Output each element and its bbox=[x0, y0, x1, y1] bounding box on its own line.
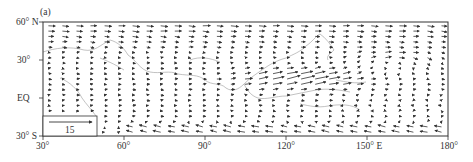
wind-vector bbox=[343, 121, 344, 122]
wind-vector bbox=[413, 63, 416, 65]
wind-vector bbox=[273, 31, 279, 32]
wind-vector bbox=[231, 47, 234, 48]
wind-vector bbox=[161, 95, 164, 96]
wind-vector bbox=[175, 36, 180, 37]
wind-vector bbox=[371, 95, 373, 96]
wind-vector bbox=[203, 31, 209, 32]
wind-vector bbox=[357, 78, 363, 79]
wind-vector bbox=[273, 77, 284, 79]
y-tick-eq: EQ bbox=[17, 93, 30, 103]
wind-vector bbox=[322, 130, 330, 132]
wind-vector bbox=[231, 100, 233, 101]
wind-vector bbox=[48, 95, 50, 96]
wind-vector bbox=[91, 84, 93, 85]
wind-vector bbox=[371, 26, 378, 27]
wind-vector bbox=[281, 131, 288, 132]
wind-vector bbox=[420, 131, 428, 132]
wind-vector bbox=[259, 72, 267, 74]
wind-vector bbox=[428, 26, 435, 27]
wind-vector bbox=[245, 84, 251, 85]
wind-vector bbox=[119, 31, 125, 32]
wind-vector bbox=[378, 125, 386, 127]
wind-vector bbox=[411, 105, 413, 106]
wind-vector bbox=[301, 26, 308, 27]
wind-vector bbox=[259, 116, 261, 117]
wind-vector bbox=[175, 100, 178, 101]
wind-vector bbox=[231, 78, 236, 79]
wind-vector bbox=[428, 31, 434, 32]
wind-vector bbox=[91, 79, 93, 80]
wind-vector bbox=[48, 84, 51, 85]
wind-vector bbox=[315, 71, 325, 73]
wind-vector bbox=[378, 131, 385, 132]
wind-vector bbox=[357, 89, 361, 90]
wind-vector bbox=[343, 67, 347, 68]
wind-vector bbox=[217, 73, 220, 74]
wind-vector bbox=[287, 116, 290, 117]
wind-vector bbox=[343, 72, 350, 74]
wind-vector bbox=[398, 106, 400, 107]
wind-vector bbox=[147, 79, 150, 80]
wind-vector bbox=[196, 131, 203, 132]
wind-vector bbox=[442, 52, 445, 53]
wind-vector bbox=[133, 31, 140, 32]
wind-vector bbox=[385, 51, 391, 52]
wind-vector bbox=[237, 131, 245, 132]
wind-vector bbox=[182, 125, 189, 127]
wind-vector bbox=[357, 51, 361, 52]
wind-vector bbox=[329, 26, 336, 27]
wind-vector bbox=[426, 100, 428, 101]
coastlines bbox=[43, 34, 366, 116]
wind-vector bbox=[105, 95, 107, 96]
wind-vector bbox=[428, 47, 432, 48]
wind-vector bbox=[301, 82, 312, 85]
wind-vector bbox=[385, 73, 386, 74]
wind-vector bbox=[371, 116, 373, 117]
wind-vector bbox=[399, 42, 404, 43]
wind-vector bbox=[161, 52, 163, 53]
wind-vector bbox=[287, 31, 293, 32]
wind-vector bbox=[442, 79, 445, 80]
wind-vector bbox=[189, 36, 194, 37]
panel-label: (a) bbox=[40, 7, 51, 18]
wind-vector bbox=[357, 36, 362, 37]
wind-vector bbox=[48, 100, 50, 101]
wind-vector bbox=[407, 126, 414, 127]
wind-vector bbox=[62, 84, 64, 85]
wind-vector bbox=[133, 26, 140, 27]
wind-vector bbox=[329, 72, 337, 74]
y-tick-60n: 60° N bbox=[16, 17, 39, 27]
y-tick-30n: 30° bbox=[17, 55, 31, 65]
wind-vector bbox=[301, 76, 315, 79]
wind-vector bbox=[231, 26, 239, 27]
wind-vector bbox=[48, 68, 50, 69]
wind-vector bbox=[287, 26, 294, 27]
wind-vector bbox=[442, 63, 444, 65]
wind-vector bbox=[343, 83, 351, 84]
wind-vector bbox=[91, 47, 95, 48]
wind-vector bbox=[442, 47, 446, 48]
wind-vector bbox=[365, 126, 371, 127]
wind-vector bbox=[315, 67, 321, 69]
wind-vector bbox=[343, 61, 346, 63]
wind-vector bbox=[371, 56, 376, 57]
wind-vector bbox=[161, 121, 162, 122]
wind-vector bbox=[105, 89, 108, 90]
wind-vector bbox=[329, 83, 338, 84]
wind-vector bbox=[126, 125, 132, 127]
wind-vector bbox=[315, 62, 318, 63]
wind-vector bbox=[211, 130, 217, 132]
wind-vector bbox=[154, 125, 161, 127]
y-tick-30s: 30° S bbox=[16, 131, 37, 141]
wind-vector bbox=[329, 36, 334, 37]
wind-vector bbox=[161, 57, 164, 58]
wind-vector bbox=[119, 116, 121, 117]
wind-vector bbox=[139, 125, 147, 127]
wind-vector bbox=[329, 77, 340, 79]
wind-vector bbox=[91, 100, 94, 101]
wind-vector bbox=[133, 111, 136, 112]
wind-vector bbox=[77, 58, 80, 59]
wind-vector bbox=[231, 94, 234, 95]
wind-vector bbox=[301, 100, 304, 101]
wind-vector bbox=[301, 52, 304, 53]
